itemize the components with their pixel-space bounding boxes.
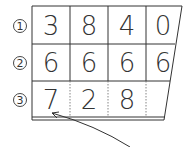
svg-text:3: 3 [17, 94, 24, 107]
svg-text:1: 1 [17, 20, 24, 33]
digit: 6 [155, 48, 172, 78]
digit: 8 [119, 85, 136, 115]
digit: 3 [43, 11, 60, 41]
digit: 4 [119, 11, 136, 41]
digit: 6 [81, 48, 98, 78]
digit: 8 [81, 11, 98, 41]
row-labels: 1 2 3 [14, 20, 27, 108]
digit: 0 [155, 11, 172, 41]
digit-grid-diagram: 1 2 3 3 8 4 0 6 6 6 6 7 2 8 [0, 0, 187, 147]
row-1-digits: 3 8 4 0 [43, 11, 172, 41]
row-3-digits: 7 2 8 [43, 85, 136, 115]
digit: 7 [43, 85, 60, 115]
digit: 2 [81, 85, 98, 115]
digit: 6 [119, 48, 136, 78]
row-2-digits: 6 6 6 6 [43, 48, 172, 78]
svg-text:2: 2 [17, 57, 24, 70]
digit: 6 [43, 48, 60, 78]
